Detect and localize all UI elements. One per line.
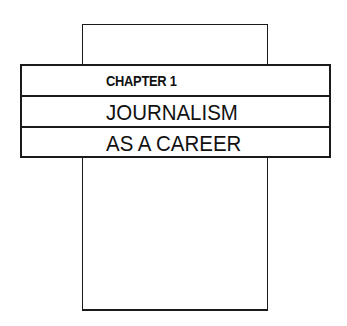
title-line-1-row: JOURNALISM bbox=[22, 97, 329, 128]
chapter-number-row: CHAPTER 1 bbox=[22, 66, 329, 97]
title-line-2-row: AS A CAREER bbox=[22, 128, 329, 159]
chapter-title-band: CHAPTER 1 JOURNALISM AS A CAREER bbox=[20, 64, 331, 158]
chapter-number: CHAPTER 1 bbox=[106, 73, 177, 89]
chapter-title-line-1: JOURNALISM bbox=[106, 100, 238, 126]
chapter-title-line-2: AS A CAREER bbox=[106, 131, 241, 157]
